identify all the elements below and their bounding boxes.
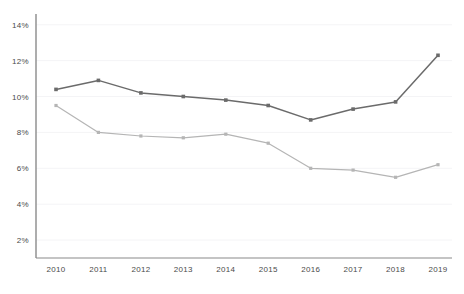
data-point-marker xyxy=(394,176,397,179)
y-axis-tick-label: 12% xyxy=(0,56,29,65)
x-axis-tick-label: 2015 xyxy=(259,265,278,274)
x-axis-tick-label: 2016 xyxy=(301,265,320,274)
data-point-marker xyxy=(224,98,228,102)
data-point-marker xyxy=(436,163,439,166)
data-point-marker xyxy=(266,104,270,108)
y-axis-tick-label: 14% xyxy=(0,20,29,29)
data-point-marker xyxy=(97,131,100,134)
y-axis-tick-label: 2% xyxy=(0,236,29,245)
data-point-marker xyxy=(352,169,355,172)
series-line xyxy=(56,55,438,120)
data-point-marker xyxy=(267,142,270,145)
series-lower xyxy=(54,104,439,179)
y-axis-tick-label: 4% xyxy=(0,200,29,209)
data-point-marker xyxy=(394,100,398,104)
data-point-marker xyxy=(97,79,101,83)
y-axis-tick-label: 8% xyxy=(0,128,29,137)
x-axis-tick-label: 2018 xyxy=(386,265,405,274)
x-axis-tick-label: 2010 xyxy=(47,265,66,274)
data-point-marker xyxy=(309,167,312,170)
data-point-marker xyxy=(224,133,227,136)
data-point-marker xyxy=(54,88,58,92)
line-chart: 2%4%6%8%10%12%14% 2010201120122013201420… xyxy=(0,0,464,294)
chart-plot-svg xyxy=(0,0,464,294)
data-point-marker xyxy=(351,107,355,111)
data-point-marker xyxy=(139,134,142,137)
x-axis-tick-label: 2017 xyxy=(344,265,363,274)
data-point-marker xyxy=(139,91,143,95)
series-line xyxy=(56,106,438,178)
x-axis-tick-label: 2013 xyxy=(174,265,193,274)
y-axis-tick-label: 6% xyxy=(0,164,29,173)
data-point-marker xyxy=(309,118,313,122)
data-point-marker xyxy=(436,54,440,58)
y-axis-tick-label: 10% xyxy=(0,92,29,101)
x-axis-tick-label: 2014 xyxy=(216,265,235,274)
x-axis-tick-label: 2012 xyxy=(131,265,150,274)
data-point-marker xyxy=(182,95,186,99)
series-upper xyxy=(54,54,440,122)
data-point-marker xyxy=(182,136,185,139)
data-point-marker xyxy=(54,104,57,107)
x-axis-tick-label: 2019 xyxy=(429,265,448,274)
x-axis-tick-label: 2011 xyxy=(89,265,107,274)
